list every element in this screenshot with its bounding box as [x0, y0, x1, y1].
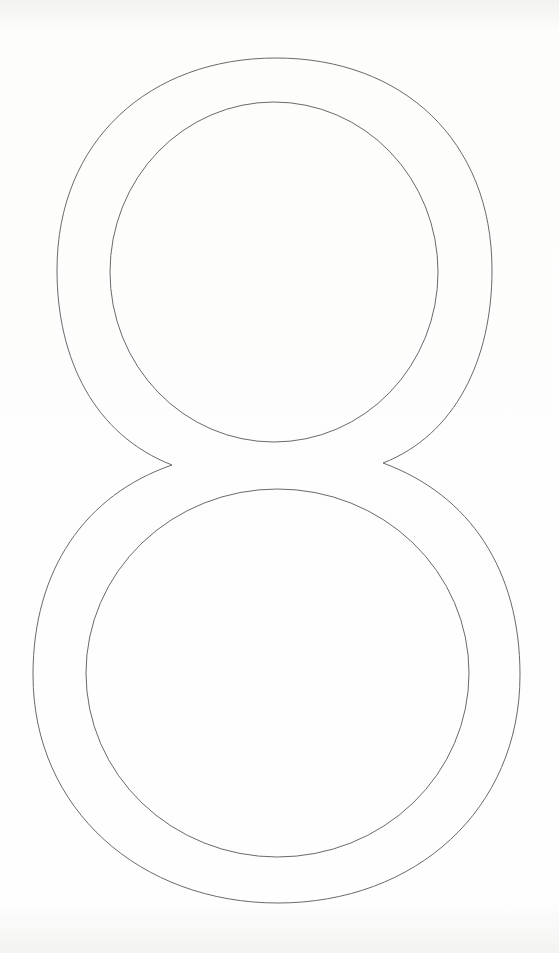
lower-counter — [86, 489, 469, 857]
outer-contour — [33, 58, 520, 903]
upper-counter — [110, 102, 438, 442]
coloring-page: 8 — [0, 0, 559, 953]
digit-eight-outline — [0, 0, 559, 953]
